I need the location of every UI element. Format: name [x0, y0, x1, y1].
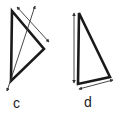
- triangle-d: [78, 13, 110, 84]
- figure-d: [74, 13, 113, 89]
- figure-label-d: d: [84, 95, 92, 109]
- figure-label-c: c: [13, 96, 20, 110]
- triangle-c: [11, 11, 44, 81]
- figure-c: [7, 6, 49, 91]
